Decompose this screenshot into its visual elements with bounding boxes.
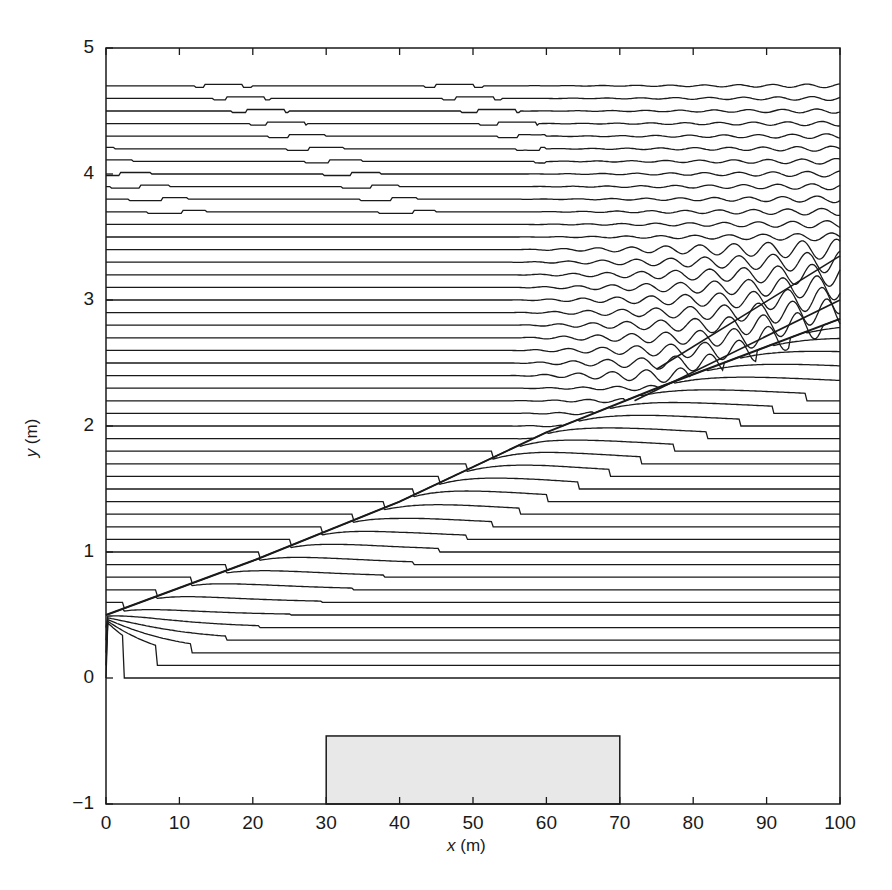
trace-line — [106, 531, 840, 545]
trace-line — [106, 618, 840, 640]
trace-line — [106, 584, 840, 596]
trace-line — [106, 146, 840, 151]
trace-line — [106, 251, 840, 273]
trace-line — [106, 109, 840, 113]
trace-line — [106, 364, 840, 382]
x-tick-label: 60 — [516, 812, 576, 834]
trace-line — [106, 339, 840, 362]
y-tick-label: 5 — [54, 36, 94, 58]
y-tick-label: 3 — [54, 288, 94, 310]
x-tick-label: 50 — [443, 812, 503, 834]
trace-line — [106, 623, 840, 678]
y-tick-label: 4 — [54, 162, 94, 184]
x-tick-label: 90 — [737, 812, 797, 834]
x-tick-label: 30 — [296, 812, 356, 834]
y-tick-label: 2 — [54, 414, 94, 436]
trace-line — [106, 196, 840, 203]
trace-lines — [106, 84, 840, 678]
trace-line — [106, 415, 840, 426]
trace-line — [106, 440, 840, 457]
trace-line — [106, 159, 840, 164]
y-tick-label: 0 — [54, 666, 94, 688]
trace-line — [106, 171, 840, 177]
trace-line — [106, 264, 840, 286]
trace-line — [106, 571, 840, 584]
trace-line — [106, 121, 840, 126]
trace-line — [106, 313, 840, 339]
y-tick-label: −1 — [54, 792, 94, 814]
trace-line — [106, 609, 840, 615]
obstacle-rectangle — [326, 736, 620, 804]
y-axis-variable: y — [22, 449, 41, 458]
trace-line — [106, 84, 840, 88]
trace-line — [106, 544, 840, 558]
trace-line — [106, 239, 840, 259]
trace-line — [106, 184, 840, 190]
x-tick-label: 80 — [663, 812, 723, 834]
secondary-front — [635, 300, 841, 401]
trace-line — [106, 478, 840, 495]
x-tick-label: 0 — [76, 812, 136, 834]
trace-line — [106, 505, 840, 520]
trace-line — [106, 518, 840, 532]
x-axis-label: x (m) — [447, 836, 486, 856]
obstacle-rect — [326, 736, 620, 804]
y-axis-label: y (m) — [22, 419, 42, 458]
x-tick-label: 10 — [149, 812, 209, 834]
trace-line — [106, 557, 840, 570]
y-tick-label: 1 — [54, 540, 94, 562]
trace-line — [106, 221, 840, 228]
trace-line — [106, 233, 840, 241]
trace-line — [106, 403, 840, 415]
trace-line — [106, 208, 840, 215]
trace-line — [106, 326, 840, 350]
x-tick-label: 70 — [590, 812, 650, 834]
trace-line — [106, 390, 840, 403]
chart-figure — [0, 0, 892, 890]
trace-line — [106, 491, 840, 508]
trace-line — [106, 620, 840, 653]
x-axis-variable: x — [447, 836, 456, 855]
trace-line — [106, 134, 840, 139]
x-tick-label: 100 — [810, 812, 870, 834]
trace-line — [106, 616, 840, 628]
y-axis-unit: (m) — [22, 419, 41, 444]
trace-line — [106, 377, 840, 390]
x-tick-label: 40 — [370, 812, 430, 834]
trace-line — [106, 97, 840, 101]
x-axis-unit: (m) — [460, 836, 485, 855]
trace-line — [106, 597, 840, 609]
trace-line — [106, 428, 840, 439]
x-tick-label: 20 — [223, 812, 283, 834]
